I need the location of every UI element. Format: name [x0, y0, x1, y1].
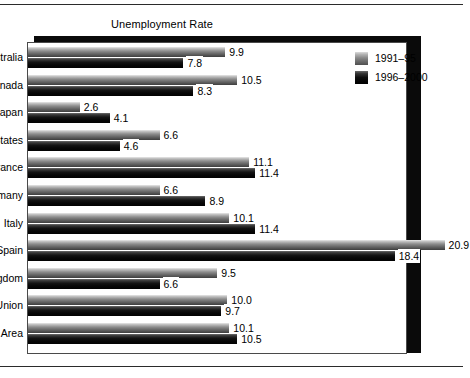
bar-value-label: 4.6 [123, 139, 140, 153]
bar-series-b: 6.6 [28, 279, 160, 289]
bar-value-label: 11.4 [258, 222, 280, 236]
legend-swatch-icon [355, 71, 368, 84]
category-label: Spain [0, 243, 23, 258]
bar-value-label: 2.6 [83, 100, 100, 114]
bar-value-label: 8.3 [196, 84, 213, 98]
category-label: France [0, 160, 23, 175]
bar-value-label: 7.8 [186, 56, 203, 70]
bar-series-a: 6.6 [28, 185, 160, 195]
legend-label: 1991–95 [375, 51, 416, 66]
bar-row: European Union10.09.7 [27, 294, 407, 319]
category-label: Australia [0, 50, 23, 65]
bar-row: Japan2.64.1 [27, 101, 407, 126]
bar-series-b: 4.1 [28, 113, 110, 123]
bar-row: Italy10.111.4 [27, 212, 407, 237]
bar-series-b: 11.4 [28, 168, 255, 178]
bar-row: France11.111.4 [27, 156, 407, 181]
category-label: European Union [0, 298, 23, 313]
bar-row: United Kingdom9.56.6 [27, 267, 407, 292]
bar-series-b: 9.7 [28, 306, 221, 316]
bar-series-b: 18.4 [28, 251, 395, 261]
bar-series-a: 10.1 [28, 213, 229, 223]
bar-value-label: 6.6 [163, 277, 180, 291]
chart-title: Unemployment Rate [111, 18, 213, 31]
legend-swatch-icon [355, 52, 368, 65]
bar-series-b: 8.9 [28, 196, 205, 206]
bar-value-label: 10.1 [232, 211, 254, 225]
bar-row: Spain20.918.4 [27, 239, 407, 264]
bar-value-label: 10.5 [240, 332, 262, 346]
bar-series-b: 10.5 [28, 334, 237, 344]
bar-series-b: 4.6 [28, 141, 120, 151]
bar-series-a: 11.1 [28, 157, 249, 167]
chart-figure: Australia9.97.8Canada10.58.3Japan2.64.1U… [27, 36, 421, 356]
bar-value-label: 6.6 [163, 183, 180, 197]
category-label: Euro Area [0, 326, 23, 341]
bar-value-label: 6.6 [163, 128, 180, 142]
bar-value-label: 9.5 [220, 266, 237, 280]
bar-value-label: 8.9 [208, 194, 225, 208]
bar-rows: Australia9.97.8Canada10.58.3Japan2.64.1U… [27, 42, 407, 354]
bar-series-a: 20.9 [28, 240, 445, 250]
bar-row: Germany6.68.9 [27, 184, 407, 209]
bar-series-b: 7.8 [28, 58, 183, 68]
legend-label: 1996–2000 [375, 70, 428, 85]
bar-row: Canada10.58.3 [27, 74, 407, 99]
category-label: United Kingdom [0, 271, 23, 286]
bar-series-b: 8.3 [28, 86, 193, 96]
category-label: Canada [0, 78, 23, 93]
bar-row: United States6.64.6 [27, 129, 407, 154]
bar-series-a: 2.6 [28, 102, 80, 112]
divider-top [0, 4, 463, 5]
divider-bottom [0, 366, 463, 367]
bar-series-a: 6.6 [28, 130, 160, 140]
bar-row: Euro Area10.110.5 [27, 322, 407, 347]
bar-value-label: 18.4 [398, 249, 420, 263]
bar-series-a: 10.1 [28, 323, 229, 333]
bar-series-b: 11.4 [28, 224, 255, 234]
legend-item: 1991–95 [355, 50, 447, 69]
bar-value-label: 10.5 [240, 73, 262, 87]
bar-value-label: 20.9 [448, 238, 470, 252]
bar-value-label: 11.4 [258, 166, 280, 180]
chart-legend: 1991–951996–2000 [355, 50, 447, 88]
bar-value-label: 9.7 [224, 304, 241, 318]
category-label: United States [0, 133, 23, 148]
category-label: Japan [0, 105, 23, 120]
bar-series-a: 9.5 [28, 268, 217, 278]
bar-row: Australia9.97.8 [27, 46, 407, 71]
legend-item: 1996–2000 [355, 69, 447, 88]
category-label: Germany [0, 188, 23, 203]
category-label: Italy [4, 216, 23, 231]
bar-series-a: 10.0 [28, 295, 227, 305]
bar-value-label: 9.9 [228, 45, 245, 59]
bar-value-label: 4.1 [113, 111, 130, 125]
